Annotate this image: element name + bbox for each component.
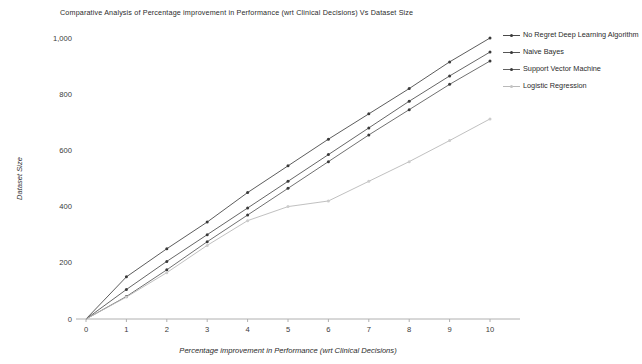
x-axis-tick-label: 4 [245,325,249,334]
y-axis-tick-label: 0 [68,315,72,324]
chart-container: Comparative Analysis of Percentage impro… [0,0,642,364]
x-axis-tick-label: 2 [165,325,169,334]
data-point [367,126,370,129]
y-axis-tick-label: 1,000 [53,34,72,43]
data-point [165,268,168,271]
legend-item-no-regret-deep-learning-algorithm[interactable]: No Regret Deep Learning Algorithm [503,30,639,40]
legend-label: Support Vector Machine [520,64,601,74]
data-point [246,219,249,222]
data-point [448,83,451,86]
data-point [408,100,411,103]
x-axis-tick-label: 1 [124,325,128,334]
data-point [489,117,492,120]
y-axis-tick-label: 400 [59,202,72,211]
x-axis-tick-label: 9 [447,325,451,334]
series-line-0 [86,38,490,319]
data-point [125,288,128,291]
data-point [327,138,330,141]
x-axis-tick-label: 8 [407,325,411,334]
x-axis-tick-label: 7 [367,325,371,334]
data-point [287,164,290,167]
data-point [125,296,128,299]
data-point [165,247,168,250]
legend-label: No Regret Deep Learning Algorithm [520,30,639,40]
data-point [206,240,209,243]
data-point [287,187,290,190]
x-axis-tick-label: 0 [84,325,88,334]
series-line-2 [86,61,490,319]
chart-legend: No Regret Deep Learning Algorithm Naive … [503,30,639,98]
data-point [327,199,330,202]
legend-label: Naive Bayes [520,47,564,57]
x-axis-tick-label: 5 [286,325,290,334]
data-point [489,60,492,63]
x-axis-tick-label: 10 [486,325,494,334]
legend-item-support-vector-machine[interactable]: Support Vector Machine [503,64,639,74]
legend-item-naive-bayes[interactable]: Naive Bayes [503,47,639,57]
series-line-3 [86,119,490,319]
x-axis-tick-label: 6 [326,325,330,334]
data-point [125,275,128,278]
data-point [206,233,209,236]
legend-marker-icon [503,82,520,91]
data-point [246,214,249,217]
x-axis-title: Percentage improvement in Performance (w… [179,346,397,355]
y-axis-title: Dataset Size [15,157,24,200]
data-point [408,87,411,90]
x-axis-tick-label: 3 [205,325,209,334]
data-point [327,160,330,163]
data-point [246,191,249,194]
data-point [367,112,370,115]
data-point [489,51,492,54]
data-point [448,60,451,63]
legend-marker-icon [503,48,520,57]
data-point [287,180,290,183]
legend-item-logistic-regression[interactable]: Logistic Regression [503,81,639,91]
legend-marker-icon [503,65,520,74]
y-axis-tick-label: 600 [59,146,72,155]
data-point [367,180,370,183]
y-axis-tick-label: 800 [59,90,72,99]
legend-marker-icon [503,31,520,40]
series-line-1 [86,52,490,319]
data-point [408,108,411,111]
data-point [206,244,209,247]
data-point [165,260,168,263]
y-axis-tick-label: 200 [59,258,72,267]
data-point [246,207,249,210]
data-point [489,37,492,40]
data-point [408,160,411,163]
data-point [367,133,370,136]
data-point [448,74,451,77]
legend-label: Logistic Regression [520,81,587,91]
data-point [287,205,290,208]
data-point [327,153,330,156]
data-point [165,271,168,274]
data-point [448,139,451,142]
data-point [206,221,209,224]
